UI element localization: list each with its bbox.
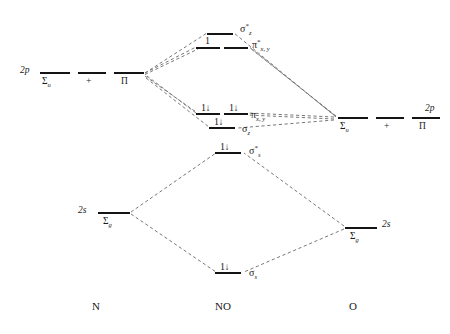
line-n2p-to-pixy-star-b [145, 49, 198, 75]
term-label-n-pi: Π [121, 77, 128, 87]
electron-pair-sigma-s: 1↓ [220, 262, 229, 272]
electron-pair-sigma-s-star: 1↓ [220, 142, 229, 152]
level-line-n2s [98, 212, 130, 214]
electron-pair-pi-xy-a: 1↓ [201, 103, 210, 113]
level-line-o2p-middle [376, 117, 404, 119]
sigma-g-subscript: g [356, 236, 359, 243]
mo-label-sigma-z: σz [242, 124, 250, 134]
term-label-o-plus: + [384, 122, 389, 132]
sigma-u-subscript: u [346, 126, 349, 133]
line-n2s-to-sigmas-star [131, 153, 216, 212]
line-o2s-to-sigmas [244, 229, 344, 272]
level-line-n2p-middle [78, 72, 106, 74]
term-label-o-sigma-g: Σg [350, 232, 359, 243]
correlation-lines-group [0, 0, 450, 334]
sigma-s-subscript: s [254, 273, 257, 280]
term-label-n-plus: + [86, 77, 91, 87]
mo-diagram-canvas: 2p Σu + Π 2p Σu + Π 2s Σg 2s Σg σ*z 1 π*… [0, 0, 450, 334]
electron-pi-xy-star-single: 1 [205, 36, 210, 46]
term-label-o-pi: Π [419, 122, 426, 132]
level-line-sigma-s-star [215, 152, 241, 154]
term-label-o-sigma-u: Σu [340, 122, 349, 133]
level-line-pi-xy-star-a [196, 47, 220, 49]
level-line-n2p-pi [114, 72, 144, 74]
axis-label-nitric-oxide: NO [215, 300, 231, 312]
line-n2s-to-sigmas [131, 214, 216, 272]
label-oxygen-2s: 2s [382, 220, 390, 230]
mo-label-sigma-s-star: σ*s [249, 146, 260, 156]
electron-pair-sigma-z: 1↓ [214, 117, 223, 127]
line-n2p-to-pixy-star [145, 47, 196, 73]
sigma-z-subscript: z [247, 129, 250, 136]
axis-label-oxygen: O [349, 300, 357, 312]
label-nitrogen-2s: 2s [78, 206, 86, 216]
mo-label-sigma-z-star: σ*z [240, 24, 251, 34]
level-line-pi-xy-b [224, 113, 248, 115]
electron-pair-pi-xy-b: 1↓ [229, 103, 238, 113]
sigma-g-subscript: g [109, 221, 112, 228]
line-o2p-to-sigmaz [238, 120, 334, 128]
line-n2p-to-sigmaz [146, 78, 209, 127]
mo-label-pi-xy-star: π*x, y [252, 40, 270, 50]
sigma-u-subscript: u [48, 81, 51, 88]
mo-label-pi-xy: πx, y [251, 110, 265, 120]
level-line-sigma-z-star [207, 33, 233, 35]
level-line-sigma-z [209, 127, 235, 129]
level-line-o2p-pi [412, 117, 440, 119]
label-oxygen-2p: 2p [425, 104, 435, 114]
level-line-pi-xy-a [196, 113, 220, 115]
term-label-n-sigma-u: Σu [42, 77, 51, 88]
level-line-pi-xy-star-b [224, 47, 248, 49]
level-line-o2p-sigma-u [338, 117, 368, 119]
line-n2p-to-pixy-b [147, 76, 198, 115]
level-line-o2s [345, 227, 377, 229]
axis-label-nitrogen: N [92, 300, 100, 312]
line-o2s-to-sigmas-star [244, 153, 344, 226]
level-line-n2p-sigma-u [40, 72, 70, 74]
label-nitrogen-2p: 2p [20, 66, 30, 76]
level-line-sigma-s [215, 272, 241, 274]
term-label-n-sigma-g: Σg [103, 217, 112, 228]
line-n2p-to-sigmaz-star [145, 33, 207, 73]
pi-xy-subscript: x, y [256, 115, 265, 122]
mo-label-sigma-s: σs [249, 268, 257, 278]
pi-xy-subscript: x, y [261, 45, 270, 52]
